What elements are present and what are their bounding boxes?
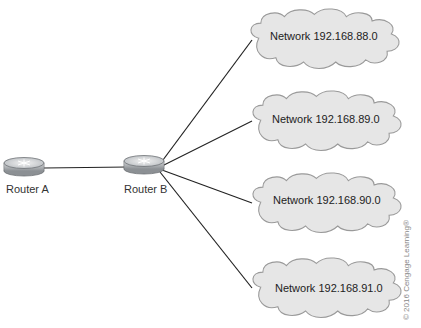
link-b-net91: [160, 172, 252, 288]
network-label-89: Network 192.168.89.0: [272, 113, 380, 125]
router-a-icon: [4, 158, 44, 177]
network-label-90: Network 192.168.90.0: [273, 194, 381, 206]
network-label-91: Network 192.168.91.0: [275, 282, 383, 294]
link-b-net88: [160, 40, 252, 164]
link-b-net90: [162, 170, 252, 203]
router-b-label: Router B: [124, 183, 167, 195]
copyright-notice: © 2016 Cengage Learning®: [402, 220, 411, 320]
router-b-icon: [124, 156, 164, 175]
network-label-88: Network 192.168.88.0: [270, 30, 378, 42]
diagram-canvas: [0, 0, 421, 328]
link-a-b: [44, 167, 128, 168]
router-a-label: Router A: [6, 183, 49, 195]
